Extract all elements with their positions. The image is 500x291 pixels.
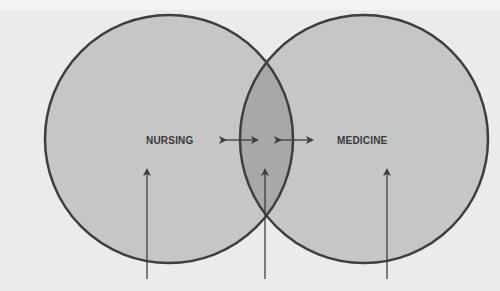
medicine-label: MEDICINE bbox=[337, 135, 388, 146]
venn-diagram: NURSING MEDICINE bbox=[0, 0, 500, 291]
nursing-label: NURSING bbox=[146, 135, 194, 146]
venn-svg bbox=[0, 0, 500, 291]
